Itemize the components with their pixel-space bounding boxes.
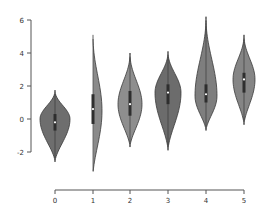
y-tick-label: 6 xyxy=(20,17,25,25)
violin-chart: 6 4 2 0 -2 0 1 2 3 4 5 xyxy=(0,0,273,214)
y-tick-label: 2 xyxy=(20,83,24,91)
median-dot xyxy=(54,121,56,123)
x-tick-label: 2 xyxy=(128,197,132,205)
iqr-box xyxy=(167,84,170,104)
y-tick-label: -2 xyxy=(17,149,24,157)
violins xyxy=(40,17,255,172)
x-tick-label: 4 xyxy=(204,197,209,205)
median-dot xyxy=(243,78,245,80)
x-axis: 0 1 2 3 4 5 xyxy=(53,190,246,205)
median-dot xyxy=(167,92,169,94)
x-tick-label: 5 xyxy=(242,197,246,205)
x-tick-label: 1 xyxy=(91,197,95,205)
median-dot xyxy=(92,108,94,110)
y-tick-label: 4 xyxy=(20,50,25,58)
y-tick-label: 0 xyxy=(20,116,24,124)
median-dot xyxy=(129,103,131,105)
x-tick-label: 0 xyxy=(53,197,57,205)
median-dot xyxy=(205,93,207,95)
y-axis: 6 4 2 0 -2 xyxy=(17,17,31,157)
iqr-box xyxy=(243,73,246,93)
x-tick-label: 3 xyxy=(166,197,170,205)
